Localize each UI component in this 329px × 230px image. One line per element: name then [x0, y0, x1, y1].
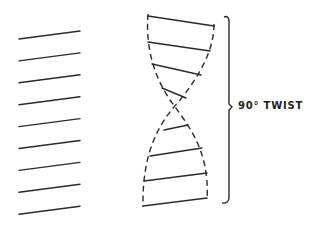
- helix-rung: [164, 125, 188, 130]
- twist-label: 90° TWIST: [238, 100, 303, 111]
- helix-rung: [143, 198, 207, 206]
- helix-strand-left-to-right: [148, 14, 208, 200]
- helix-rung: [144, 173, 207, 181]
- parallel-line: [19, 97, 80, 105]
- parallel-line: [19, 162, 80, 170]
- parallel-line: [19, 119, 80, 127]
- parallel-line: [19, 31, 80, 39]
- parallel-line: [19, 206, 80, 214]
- parallel-line: [19, 53, 80, 61]
- untwisted-parallel-lines: [19, 31, 80, 214]
- parallel-line: [19, 141, 80, 149]
- helix-rung: [152, 64, 201, 75]
- helix-rung: [148, 16, 214, 26]
- parallel-line: [19, 184, 80, 192]
- twist-diagram: [0, 0, 329, 230]
- parallel-line: [19, 75, 80, 83]
- bracket-brace: [222, 17, 232, 204]
- helix-rung: [150, 148, 202, 156]
- helix-rung: [148, 42, 210, 51]
